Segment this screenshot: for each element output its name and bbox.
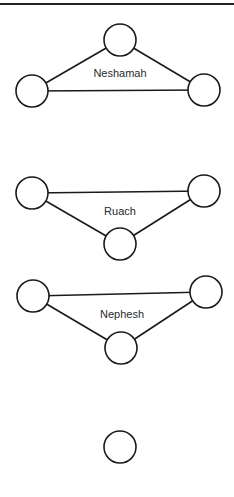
circle-node-left	[16, 177, 48, 209]
triad-neshamah: Neshamah	[16, 24, 220, 107]
group-nodes	[104, 431, 136, 463]
circle-node-right	[190, 276, 222, 308]
circle-node-left	[17, 280, 49, 312]
circle-node-left	[16, 75, 48, 107]
circle-node-right	[188, 175, 220, 207]
triad-label-neshamah: Neshamah	[93, 67, 146, 79]
single-node-group	[104, 431, 136, 463]
triad-label-nephesh: Nephesh	[100, 308, 144, 320]
triad-nodes	[17, 276, 222, 364]
sephirot-triads-diagram: Neshamah Ruach Nephesh	[0, 0, 234, 497]
edge-left-right	[33, 292, 206, 296]
edge-left-right	[32, 191, 204, 193]
triad-nodes	[16, 175, 220, 260]
circle-node-top	[104, 24, 136, 56]
triad-nodes	[16, 24, 220, 107]
triad-label-ruach: Ruach	[104, 205, 136, 217]
circle-node-bottom	[104, 228, 136, 260]
circle-node-single	[104, 431, 136, 463]
triad-nephesh: Nephesh	[17, 276, 222, 364]
edge-left-right	[32, 90, 204, 91]
triad-ruach: Ruach	[16, 175, 220, 260]
circle-node-bottom	[105, 332, 137, 364]
circle-node-right	[188, 74, 220, 106]
